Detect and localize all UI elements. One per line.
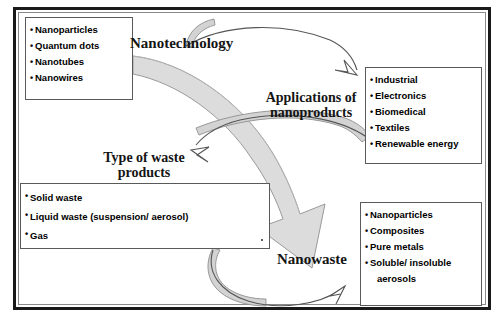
label-waste-line1: Type of waste bbox=[103, 150, 184, 165]
list-item-continuation: aerosols bbox=[361, 271, 481, 287]
list-item: Nanoparticles bbox=[361, 207, 481, 223]
list-item: Quantum dots bbox=[26, 38, 132, 54]
list-item: Liquid waste (suspension/ aerosol) bbox=[21, 207, 269, 226]
list-item: Nanoparticles bbox=[26, 22, 132, 38]
label-waste-products: Type of waste products bbox=[90, 150, 198, 180]
label-applications-line2: nanoproducts bbox=[270, 105, 352, 120]
list-item: Nanotubes bbox=[26, 54, 132, 70]
nanomaterials-list: Nanoparticles Quantum dots Nanotubes Nan… bbox=[26, 22, 132, 86]
label-applications-line1: Applications of bbox=[266, 90, 357, 105]
box-nanowaste-products: Nanoparticles Composites Pure metals Sol… bbox=[360, 202, 482, 306]
list-item: Soluble/ insoluble bbox=[361, 255, 481, 271]
thick-arrow-waste-hook bbox=[208, 248, 266, 306]
list-item: Composites bbox=[361, 223, 481, 239]
list-item: Gas bbox=[21, 226, 269, 245]
scan-artifact-dot bbox=[261, 239, 263, 241]
label-waste-line2: products bbox=[118, 165, 171, 180]
box-waste-types: Solid waste Liquid waste (suspension/ ae… bbox=[20, 183, 270, 249]
list-item: Renewable energy bbox=[366, 136, 481, 152]
list-item: Industrial bbox=[366, 72, 481, 88]
diagram-canvas: Nanoparticles Quantum dots Nanotubes Nan… bbox=[0, 0, 504, 323]
label-nanowaste: Nanowaste bbox=[277, 252, 347, 267]
list-item: Nanowires bbox=[26, 70, 132, 86]
label-nanotechnology: Nanotechnology bbox=[130, 36, 233, 51]
applications-list: Industrial Electronics Biomedical Textil… bbox=[366, 72, 481, 152]
list-item: Pure metals bbox=[361, 239, 481, 255]
list-item: Solid waste bbox=[21, 188, 269, 207]
box-applications: Industrial Electronics Biomedical Textil… bbox=[365, 67, 482, 164]
nanowaste-products-list: Nanoparticles Composites Pure metals Sol… bbox=[361, 207, 481, 287]
list-item: Electronics bbox=[366, 88, 481, 104]
label-applications: Applications of nanoproducts bbox=[259, 90, 363, 120]
waste-types-list: Solid waste Liquid waste (suspension/ ae… bbox=[21, 188, 269, 245]
list-item: Textiles bbox=[366, 120, 481, 136]
list-item: Biomedical bbox=[366, 104, 481, 120]
box-nanomaterials: Nanoparticles Quantum dots Nanotubes Nan… bbox=[25, 17, 133, 100]
